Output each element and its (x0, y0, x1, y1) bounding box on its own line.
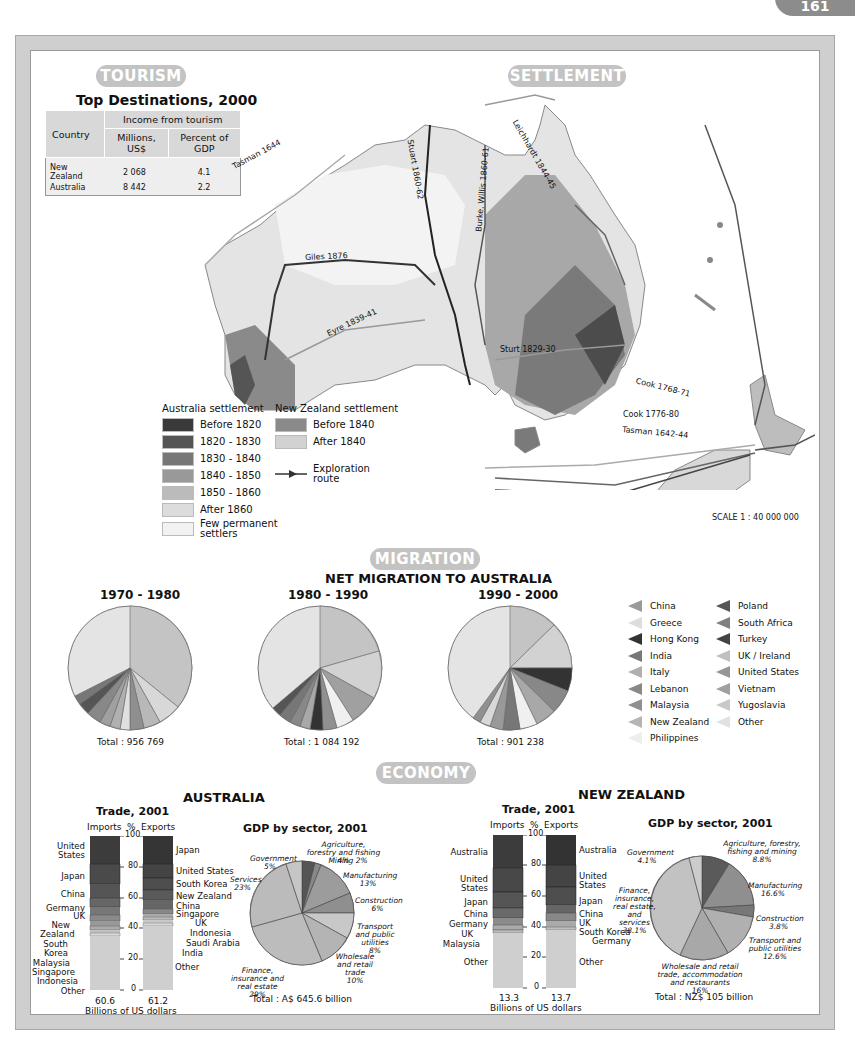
legend-item: Turkey (716, 631, 799, 648)
axis-tick: 60 (128, 893, 138, 901)
legend-item: 1830 - 1840 (162, 450, 280, 467)
axis-tick: 20 (128, 954, 138, 962)
nz-import-label: Japan (448, 898, 488, 907)
migration-title: NET MIGRATION TO AUSTRALIA (325, 571, 552, 586)
au-export-label: United States (176, 867, 234, 876)
legend-item: India (628, 648, 709, 665)
legend-item: Yugoslavia (716, 697, 799, 714)
nz-export-label: Japan (579, 897, 603, 906)
page-number: 161 (800, 0, 829, 14)
nz-gdp-label-manufacturing: Manufacturing16.6% (748, 882, 798, 898)
au-trade-title: Trade, 2001 (96, 805, 169, 818)
migration-pie-1990 (445, 603, 575, 733)
migration-section-label: MIGRATION (370, 548, 480, 570)
au-gdp-label-services: Services23% (230, 876, 255, 892)
legend-label: Before 1820 (200, 419, 261, 430)
au-exports-total: 61.2 (148, 996, 168, 1006)
legend-label: Yugoslavia (738, 700, 785, 710)
legend-label: Other (738, 717, 764, 727)
nz-exports-total: 13.7 (551, 993, 571, 1003)
au-import-label: China (49, 890, 85, 899)
au-exports-label: Exports (141, 822, 175, 832)
au-export-label: New Zealand (176, 892, 232, 901)
axis-tick: 0 (131, 985, 136, 993)
legend-triangle-icon (716, 716, 730, 728)
legend-item-exploration-route: Exploration route (275, 462, 398, 486)
nz-gdp-label-agriculture: Agriculture, forestry, fishing and minin… (722, 840, 802, 864)
legend-label: China (650, 601, 676, 611)
au-export-label: UK (195, 919, 207, 928)
legend-swatch (162, 469, 194, 483)
legend-item: Philippines (628, 730, 709, 747)
legend-label: Few permanent settlers (200, 519, 280, 539)
legend-australia-settlement: Australia settlement Before 1820 1820 - … (162, 403, 280, 540)
nz-gdp-label-government: Government4.1% (627, 849, 667, 865)
legend-item: China (628, 598, 709, 615)
legend-item: Hong Kong (628, 631, 709, 648)
legend-triangle-icon (716, 699, 730, 711)
au-import-label: United States (49, 842, 85, 860)
migration-legend-col2: Poland South Africa Turkey UK / Ireland … (716, 598, 799, 730)
legend-triangle-icon (628, 699, 642, 711)
legend-item: New Zealand (628, 714, 709, 731)
pie-total-1990: Total : 901 238 (477, 737, 544, 747)
au-export-label: Other (175, 963, 199, 972)
au-gdp-label-manufacturing: Manufacturing13% (343, 872, 393, 888)
legend-label: 1830 - 1840 (200, 453, 261, 464)
legend-triangle-icon (716, 633, 730, 645)
legend-triangle-icon (628, 716, 642, 728)
axis-tick: 20 (531, 952, 541, 960)
axis-tick: 100 (125, 831, 140, 839)
legend-label: South Africa (738, 618, 793, 628)
nz-export-label: Other (579, 958, 603, 967)
nz-gdp-total: Total : NZ$ 105 billion (655, 992, 753, 1002)
nz-exports-label: Exports (544, 820, 578, 830)
legend-label: Lebanon (650, 684, 689, 694)
nz-title: NEW ZEALAND (578, 787, 685, 802)
legend-triangle-icon (716, 617, 730, 629)
legend-item: After 1840 (275, 433, 398, 450)
au-gdp-total: Total : A$ 645.6 billion (252, 994, 352, 1004)
legend-title: New Zealand settlement (275, 403, 398, 414)
pie-period-1980: 1980 - 1990 (288, 588, 368, 602)
legend-label: Greece (650, 618, 682, 628)
legend-item: Greece (628, 615, 709, 632)
nz-gdp-label-transport: Transport and public utilities12.6% (745, 937, 805, 961)
pie-period-1970: 1970 - 1980 (100, 588, 180, 602)
legend-item: Vietnam (716, 681, 799, 698)
col-millions: Millions, US$ (105, 129, 168, 158)
nz-gdp-title: GDP by sector, 2001 (648, 817, 773, 830)
migration-pie-1970 (65, 603, 195, 733)
legend-triangle-icon (716, 666, 730, 678)
legend-label: Vietnam (738, 684, 776, 694)
nz-import-label: United States (448, 875, 488, 893)
au-import-label: South Korea (40, 940, 68, 958)
cell-millions: 2 068 (105, 158, 168, 183)
legend-item: After 1860 (162, 501, 280, 518)
legend-item: Malaysia (628, 697, 709, 714)
legend-item: Poland (716, 598, 799, 615)
legend-label: New Zealand (650, 717, 709, 727)
legend-triangle-icon (628, 617, 642, 629)
axis-tick: 60 (531, 891, 541, 899)
nz-import-label: Other (448, 958, 488, 967)
legend-triangle-icon (628, 633, 642, 645)
legend-label: India (650, 651, 672, 661)
legend-item: Before 1820 (162, 416, 280, 433)
legend-label: Malaysia (650, 700, 689, 710)
cell-millions: 8 442 (105, 182, 168, 196)
legend-triangle-icon (628, 600, 642, 612)
legend-swatch (162, 522, 194, 536)
nz-import-label: UK (448, 930, 473, 939)
au-unit: Billions of US dollars (85, 1006, 177, 1016)
axis-tick: 80 (531, 860, 541, 868)
legend-label: After 1840 (313, 436, 366, 447)
cell-country: Australia (46, 182, 105, 196)
au-gdp-label-construction: Construction6% (355, 897, 400, 913)
au-imports-total: 60.6 (95, 996, 115, 1006)
col-country: Country (46, 111, 105, 158)
settlement-section-label: SETTLEMENT (508, 65, 626, 87)
pie-total-1980: Total : 1 084 192 (284, 737, 360, 747)
legend-swatch (162, 452, 194, 466)
map-scale: SCALE 1 : 40 000 000 (712, 513, 799, 522)
